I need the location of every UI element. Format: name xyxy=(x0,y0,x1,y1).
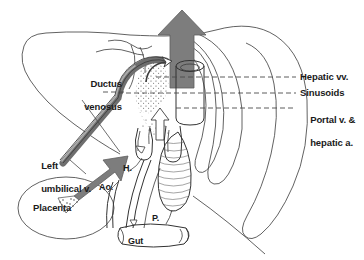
label-portal-line2: hepatic a. xyxy=(310,137,353,148)
fetal-circulation-diagram: Ductus venosus Left umbilical v. Placent… xyxy=(0,0,364,260)
label-placenta: Placenta xyxy=(33,202,71,214)
label-aorta-abbr: Ao. xyxy=(99,182,113,194)
label-portal-line1: Portal v. & xyxy=(310,114,355,125)
label-left-umbilical-line2: umbilical v. xyxy=(41,183,91,194)
label-gut: Gut xyxy=(128,236,143,248)
hatched-organ xyxy=(155,132,193,224)
label-hepatic-artery-abbr: H. xyxy=(123,163,132,175)
label-hepatic-veins: Hepatic vv. xyxy=(300,71,348,83)
label-ductus-venosus-line1: Ductus xyxy=(90,78,122,89)
curved-arrow-icon-portal-inflow xyxy=(151,108,169,140)
label-left-umbilical-line1: Left xyxy=(41,160,58,171)
label-portal-vein-abbr: P. xyxy=(152,213,159,225)
label-portal-vein-hepatic-artery: Portal v. & hepatic a. xyxy=(300,102,362,160)
label-left-umbilical-vein: Left umbilical v. xyxy=(31,148,103,206)
label-sinusoids: Sinusoids xyxy=(300,87,345,99)
label-ductus-venosus: Ductus venosus xyxy=(67,66,122,124)
label-ductus-venosus-line2: venosus xyxy=(84,101,122,112)
